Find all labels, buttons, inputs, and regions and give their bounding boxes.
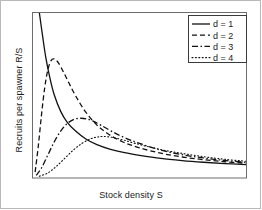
- legend-label: d = 1: [213, 19, 233, 29]
- x-axis-label: Stock density S: [0, 190, 262, 200]
- legend-label: d = 4: [213, 53, 233, 63]
- plot-area: d = 1d = 2d = 3d = 4: [0, 0, 262, 210]
- legend-label: d = 2: [213, 31, 233, 41]
- legend-label: d = 3: [213, 42, 233, 52]
- y-axis-label: Recruits per spawner R/S: [14, 25, 24, 175]
- chart-figure: d = 1d = 2d = 3d = 4 Stock density S Rec…: [0, 0, 262, 210]
- chart-legend: d = 1d = 2d = 3d = 4: [189, 16, 247, 63]
